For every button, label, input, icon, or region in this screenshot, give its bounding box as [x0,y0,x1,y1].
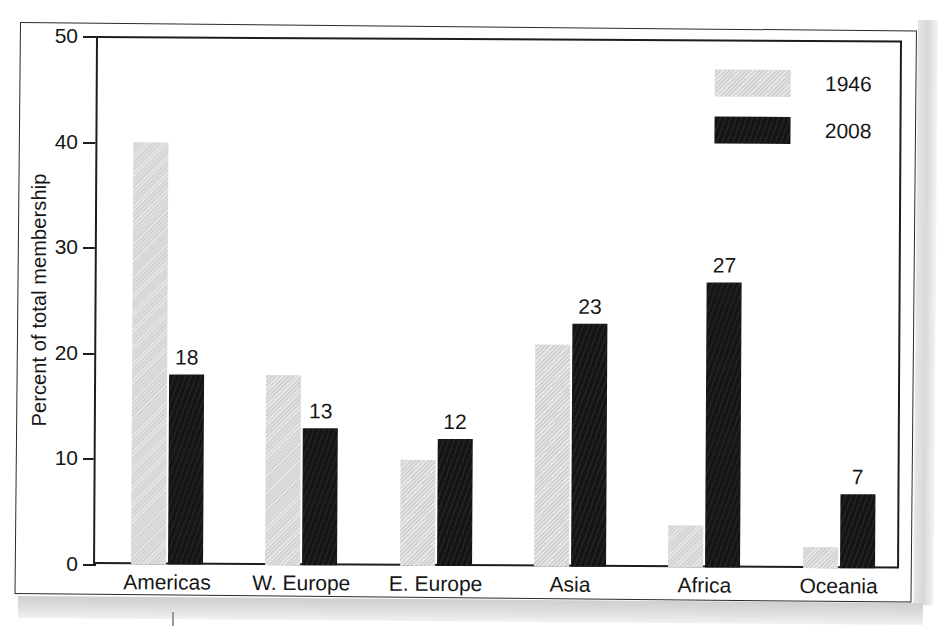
y-tick-label: 40 [55,130,78,154]
y-tick-label: 30 [55,235,78,259]
bar-value-label: 13 [309,399,332,423]
x-axis-label-africa: Africa [677,573,731,597]
y-tick-mark [83,142,96,144]
y-tick-mark [83,36,96,38]
y-tick-mark [83,564,96,566]
bar-w-europe-1946 [265,375,301,565]
y-tick-label: 0 [66,552,78,576]
legend-item-2008: 2008 [715,116,872,144]
legend-swatch-1946 [715,69,791,96]
plot-area: 18131223277 AmericasW. EuropeE. EuropeAs… [93,36,902,568]
bar-value-label: 27 [713,253,736,277]
bar-oceania-1946 [803,547,838,568]
bar-e-europe-1946 [400,460,436,566]
bar-e-europe-2008: 12 [437,439,473,566]
scan-shadow-right [913,20,938,605]
bar-africa-1946 [668,525,703,567]
bar-africa-2008: 27 [705,282,742,567]
bar-asia-2008: 23 [571,324,607,567]
y-tick-label: 10 [55,446,78,470]
legend-swatch-2008 [715,116,791,143]
bar-oceania-2008: 7 [840,494,875,568]
x-axis-label-w-europe: W. Europe [252,571,350,596]
y-axis-title: Percent of total membership [26,36,52,564]
legend-item-1946: 1946 [715,69,872,97]
bar-americas-1946 [131,142,168,565]
bar-value-label: 7 [852,465,864,489]
y-tick-label: 20 [55,341,78,365]
bar-value-label: 18 [175,345,198,369]
legend: 19462008 [715,69,872,164]
x-axis-label-asia: Asia [549,573,590,597]
legend-label-2008: 2008 [825,119,872,143]
bar-w-europe-2008: 13 [302,428,338,565]
x-axis-label-americas: Americas [123,570,211,594]
scanned-figure-page: Percent of total membership 01020304050 … [0,0,941,629]
bar-americas-2008: 18 [168,374,204,564]
stray-pen-mark [172,612,174,626]
bar-value-label: 12 [443,410,466,434]
legend-label-1946: 1946 [825,72,872,96]
bar-value-label: 23 [578,295,601,319]
bar-asia-1946 [534,345,570,567]
x-axis-label-e-europe: E. Europe [389,572,483,597]
y-axis-title-holder: Percent of total membership [28,36,54,564]
x-axis-label-oceania: Oceania [799,574,877,598]
y-tick-label: 50 [55,24,78,48]
